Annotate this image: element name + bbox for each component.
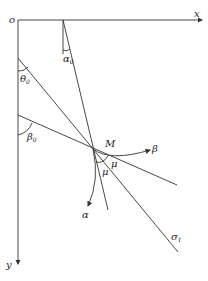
sigma1-line <box>18 58 178 252</box>
alpha-curve-label: α <box>82 209 89 220</box>
alpha0-arc <box>63 49 70 51</box>
alpha-curve <box>88 149 96 206</box>
steep-line <box>63 20 108 210</box>
point-m-label: M <box>104 138 116 149</box>
sigma1-label: σ1 <box>171 231 182 243</box>
theta0-label: θ0 <box>20 73 30 85</box>
x-axis-label: x <box>194 8 200 19</box>
origin-label: o <box>9 14 15 25</box>
slip-line-diagram: o x y α0 θ0 β0 M β α μ μ σ1 <box>0 0 208 281</box>
beta-curve-label: β <box>151 143 158 154</box>
beta-curve <box>93 149 150 156</box>
beta0-label: β0 <box>26 131 37 143</box>
mu-label-2: μ <box>102 166 109 177</box>
mu-label-1: μ <box>111 158 118 169</box>
y-axis-label: y <box>5 259 12 270</box>
alpha0-label: α0 <box>63 53 74 65</box>
